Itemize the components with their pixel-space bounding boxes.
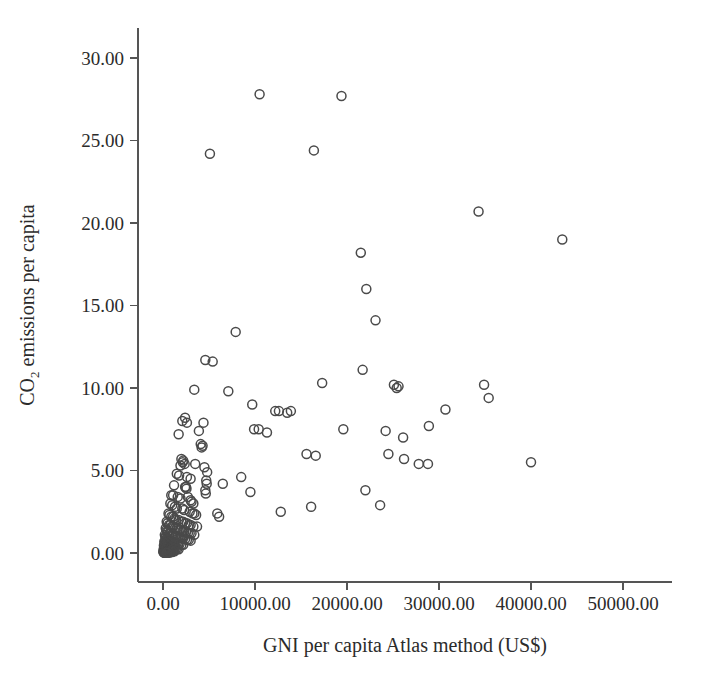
data-points-layer [159,90,567,558]
data-point [474,207,483,216]
data-point [190,385,199,394]
x-axis-ticks: 0.0010000.0020000.0030000.0040000.005000… [146,582,658,614]
data-point [400,454,409,463]
data-point [205,149,214,158]
data-point [309,146,318,155]
data-point [255,90,264,99]
data-point [484,393,493,402]
y-axis-title-suffix: emissions per capita [16,204,39,371]
data-point [480,380,489,389]
y-tick-label: 25.00 [81,130,124,151]
data-point [311,451,320,460]
data-point [337,91,346,100]
data-point [194,426,203,435]
data-point [307,502,316,511]
x-tick-label: 50000.00 [587,593,658,614]
data-point [362,285,371,294]
data-point [376,501,385,510]
data-point [199,418,208,427]
x-axis-title: GNI per capita Atlas method (US$) [263,634,547,657]
data-point [381,426,390,435]
data-point [384,450,393,459]
y-axis-ticks: 0.005.0010.0015.0020.0025.0030.00 [81,48,138,564]
data-point [361,486,370,495]
y-tick-label: 5.00 [91,460,124,481]
data-point [441,405,450,414]
data-point [246,487,255,496]
data-point [302,450,311,459]
y-tick-label: 0.00 [91,543,124,564]
x-tick-label: 20000.00 [311,593,382,614]
data-point [170,481,179,490]
data-point [423,459,432,468]
data-point [558,235,567,244]
data-point [262,428,271,437]
data-point [224,387,233,396]
y-tick-label: 10.00 [81,378,124,399]
y-axis-title: CO2 emissions per capita [16,204,42,406]
x-tick-label: 30000.00 [403,593,474,614]
data-point [527,458,536,467]
data-point [318,379,327,388]
data-point [237,473,246,482]
data-point [276,507,285,516]
data-point [191,459,200,468]
data-point [414,459,423,468]
y-axis-title-prefix: CO [16,378,38,406]
data-point [174,430,183,439]
data-point [371,316,380,325]
plot-canvas: 0.005.0010.0015.0020.0025.0030.00 0.0010… [0,0,715,676]
data-point [358,365,367,374]
x-tick-label: 0.00 [146,593,179,614]
y-tick-label: 30.00 [81,48,124,69]
x-tick-label: 10000.00 [219,593,290,614]
data-point [248,400,257,409]
y-tick-label: 20.00 [81,213,124,234]
data-point [356,248,365,257]
data-point [231,327,240,336]
data-point [218,479,227,488]
scatter-plot-figure: 0.005.0010.0015.0020.0025.0030.00 0.0010… [0,0,715,676]
data-point [424,421,433,430]
data-point [339,425,348,434]
data-point [399,433,408,442]
y-tick-label: 15.00 [81,295,124,316]
x-tick-label: 40000.00 [495,593,566,614]
